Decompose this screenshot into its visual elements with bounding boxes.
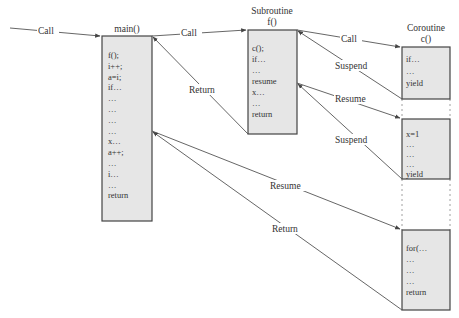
code-line: … — [406, 265, 415, 275]
edge-label-suspend-2: Suspend — [335, 135, 367, 145]
coroutine-title-line1: Coroutine — [407, 23, 445, 33]
edge-return-c-main — [153, 132, 402, 310]
code-line: resume — [252, 76, 277, 86]
edge-label-resume-f-c: Resume — [335, 94, 366, 104]
code-line: f(); — [108, 50, 119, 60]
code-line: return — [108, 190, 129, 200]
coroutine-title-line2: c() — [421, 34, 432, 45]
code-line: yield — [406, 169, 424, 179]
code-line: if… — [108, 82, 122, 92]
code-line: … — [406, 149, 415, 159]
code-line: return — [406, 287, 427, 297]
edge-label-return-c-main: Return — [272, 224, 298, 234]
code-line: … — [406, 276, 415, 286]
code-line: … — [252, 98, 261, 108]
main-title: main() — [114, 24, 139, 35]
code-line: a++; — [108, 147, 124, 157]
code-line: … — [108, 93, 117, 103]
edge-label-call-main-f: Call — [181, 28, 197, 38]
code-line: for(… — [406, 243, 427, 253]
code-line: … — [406, 159, 415, 169]
code-line: … — [108, 180, 117, 190]
code-line: a=i; — [108, 72, 121, 82]
edge-label-call-f-c: Call — [341, 34, 357, 44]
code-line: if… — [406, 54, 420, 64]
edge-label-suspend-1: Suspend — [335, 61, 367, 71]
code-line: x… — [252, 87, 265, 97]
code-line: … — [252, 65, 261, 75]
subroutine-title-line2: f() — [267, 17, 277, 28]
code-line: … — [108, 115, 117, 125]
code-line: … — [108, 158, 117, 168]
code-line: return — [252, 109, 273, 119]
code-line: if… — [252, 54, 266, 64]
code-line: yield — [406, 78, 424, 88]
code-line: … — [108, 104, 117, 114]
code-line: … — [108, 126, 117, 136]
code-line: i++; — [108, 61, 122, 71]
code-line: … — [406, 66, 415, 76]
code-line: x… — [108, 136, 121, 146]
subroutine-title-line1: Subroutine — [251, 6, 293, 16]
code-line: x=1 — [406, 129, 419, 139]
code-line: … — [406, 254, 415, 264]
edge-label-return-f-main: Return — [189, 85, 215, 95]
code-line: i… — [108, 169, 119, 179]
edge-label-resume-main-c: Resume — [270, 181, 301, 191]
edge-label-call-in: Call — [38, 26, 54, 36]
code-line: … — [406, 139, 415, 149]
code-line: c(); — [252, 43, 264, 53]
coroutine-diagram: Call Call Return Call Suspend Resume Sus… — [0, 0, 459, 318]
